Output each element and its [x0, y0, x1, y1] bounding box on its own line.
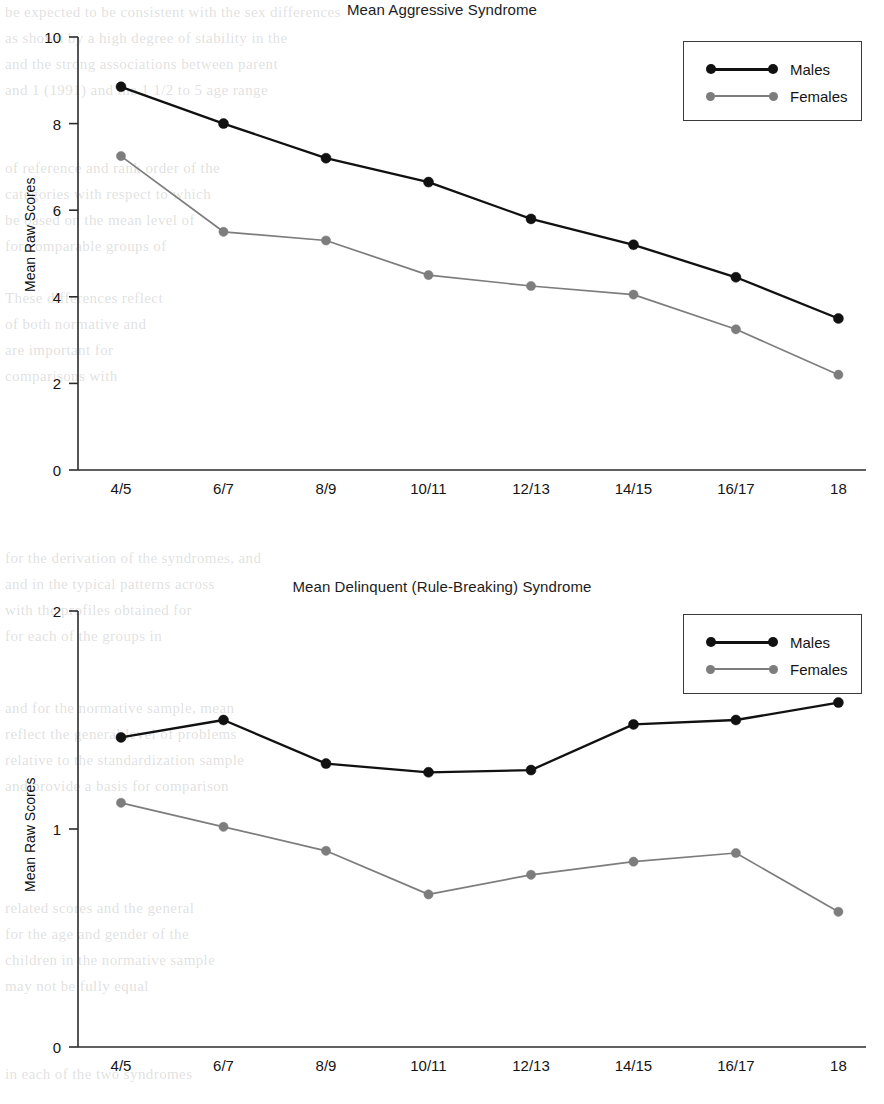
y-tick-value: 0 — [53, 462, 61, 479]
x-tick-label: 14/15 — [615, 1057, 653, 1074]
x-tick-label: 4/5 — [111, 1057, 132, 1074]
legend-label-males: Males — [790, 634, 830, 651]
figure-aggressive-syndrome: Mean Aggressive Syndrome Mean Raw Scores… — [0, 0, 884, 552]
x-tick-label: 14/15 — [615, 480, 653, 497]
x-tick-label: 8/9 — [316, 1057, 337, 1074]
legend-row-males: Males — [706, 633, 830, 651]
legend-marker-males-icon — [706, 635, 778, 649]
x-tick-label: 18 — [830, 480, 847, 497]
y-tick-value: 6 — [53, 202, 61, 219]
x-tick-label: 10/11 — [410, 1057, 446, 1074]
y-tick-value: 4 — [53, 288, 61, 305]
x-tick-label: 12/13 — [512, 480, 550, 497]
legend-delinquent: Males Females — [683, 614, 862, 694]
legend-label-females: Females — [790, 661, 848, 678]
y-tick-value: 8 — [53, 115, 61, 132]
x-tick-label: 8/9 — [316, 480, 337, 497]
legend-label-females: Females — [790, 88, 848, 105]
legend-marker-females-icon — [706, 89, 778, 103]
legend-label-males: Males — [790, 61, 830, 78]
figure-delinquent-syndrome: Mean Delinquent (Rule-Breaking) Syndrome… — [0, 552, 884, 1104]
x-tick-label: 4/5 — [111, 480, 132, 497]
x-tick-label: 6/7 — [213, 1057, 234, 1074]
legend-row-males: Males — [706, 60, 830, 78]
legend-row-females: Females — [706, 660, 848, 678]
y-tick-value: 10 — [44, 29, 61, 46]
x-tick-label: 10/11 — [410, 480, 446, 497]
x-tick-label: 16/17 — [717, 480, 755, 497]
x-tick-label: 6/7 — [213, 480, 234, 497]
legend-marker-females-icon — [706, 662, 778, 676]
y-tick-value: 1 — [53, 821, 61, 838]
legend-marker-males-icon — [706, 62, 778, 76]
legend-row-females: Females — [706, 87, 848, 105]
legend-aggressive: Males Females — [683, 41, 862, 121]
y-tick-value: 2 — [53, 603, 61, 620]
x-tick-label: 12/13 — [512, 1057, 550, 1074]
y-tick-value: 0 — [53, 1039, 61, 1056]
x-tick-label: 16/17 — [717, 1057, 755, 1074]
y-tick-value: 2 — [53, 375, 61, 392]
x-tick-label: 18 — [830, 1057, 847, 1074]
